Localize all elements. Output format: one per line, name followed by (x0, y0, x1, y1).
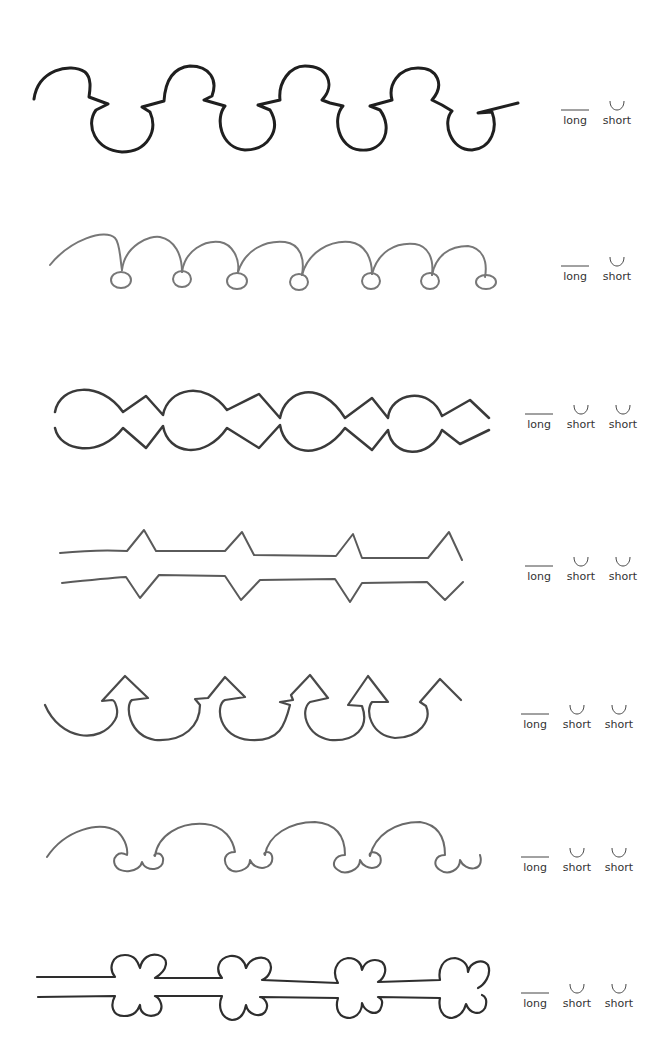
legend-row-2: long short (557, 256, 635, 283)
short-curve-icon (567, 847, 587, 859)
legend-label: short (605, 718, 633, 731)
legend-short: short (563, 556, 599, 583)
short-curve-icon (609, 847, 629, 859)
short-curve-icon (613, 404, 633, 416)
short-curve-icon (571, 556, 591, 568)
legend-row-1: long short (557, 100, 635, 127)
legend-long: long (557, 100, 593, 127)
pattern-stroke-5 (0, 660, 540, 770)
pattern-stroke-7 (0, 945, 540, 1035)
legend-label: short (605, 997, 633, 1010)
pattern-row-3: long short short (0, 370, 650, 460)
short-curve-icon (609, 983, 629, 995)
legend-label: short (563, 997, 591, 1010)
pattern-stroke-6 (0, 815, 540, 895)
legend-label: short (609, 418, 637, 431)
legend-long: long (521, 556, 557, 583)
pattern-row-6: long short short (0, 815, 650, 895)
legend-label: short (603, 114, 631, 127)
legend-label: short (567, 418, 595, 431)
long-stroke-icon (520, 704, 550, 716)
legend-long: long (517, 847, 553, 874)
pattern-row-5: long short short (0, 660, 650, 770)
short-curve-icon (607, 100, 627, 112)
pattern-stroke-3 (0, 370, 540, 460)
short-curve-icon (613, 556, 633, 568)
legend-long: long (517, 983, 553, 1010)
pattern-row-7: long short short (0, 945, 650, 1035)
legend-label: short (603, 270, 631, 283)
legend-label: long (523, 718, 547, 731)
pattern-stroke-1 (0, 40, 540, 170)
long-stroke-icon (520, 983, 550, 995)
legend-short: short (605, 404, 641, 431)
legend-label: long (563, 114, 587, 127)
legend-label: long (527, 418, 551, 431)
legend-short: short (559, 983, 595, 1010)
legend-label: long (527, 570, 551, 583)
legend-short: short (601, 847, 637, 874)
short-curve-icon (567, 704, 587, 716)
pattern-stroke-2 (0, 220, 540, 300)
legend-short: short (599, 100, 635, 127)
legend-row-7: long short short (517, 983, 637, 1010)
long-stroke-icon (560, 100, 590, 112)
long-stroke-icon (560, 256, 590, 268)
long-stroke-icon (524, 404, 554, 416)
legend-row-6: long short short (517, 847, 637, 874)
legend-label: long (563, 270, 587, 283)
legend-long: long (517, 704, 553, 731)
short-curve-icon (571, 404, 591, 416)
pattern-row-1: long short (0, 40, 650, 170)
legend-short: short (559, 704, 595, 731)
legend-short: short (563, 404, 599, 431)
legend-label: short (567, 570, 595, 583)
pattern-stroke-4 (0, 520, 540, 610)
legend-row-3: long short short (521, 404, 641, 431)
legend-label: long (523, 861, 547, 874)
legend-row-5: long short short (517, 704, 637, 731)
short-curve-icon (609, 704, 629, 716)
legend-label: short (605, 861, 633, 874)
long-stroke-icon (520, 847, 550, 859)
legend-row-4: long short short (521, 556, 641, 583)
legend-short: short (559, 847, 595, 874)
pattern-row-4: long short short (0, 520, 650, 610)
legend-long: long (557, 256, 593, 283)
legend-short: short (605, 556, 641, 583)
long-stroke-icon (524, 556, 554, 568)
legend-label: short (609, 570, 637, 583)
legend-label: long (523, 997, 547, 1010)
short-curve-icon (567, 983, 587, 995)
short-curve-icon (607, 256, 627, 268)
legend-label: short (563, 718, 591, 731)
pattern-row-2: long short (0, 220, 650, 300)
legend-short: short (601, 983, 637, 1010)
legend-short: short (599, 256, 635, 283)
legend-label: short (563, 861, 591, 874)
legend-long: long (521, 404, 557, 431)
legend-short: short (601, 704, 637, 731)
